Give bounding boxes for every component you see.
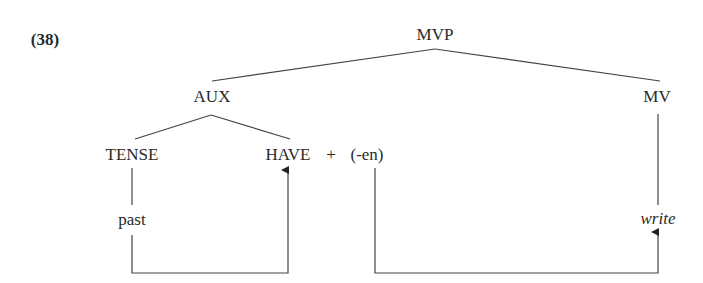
plus-sign: + [326, 145, 336, 165]
edge-aux-have [211, 115, 290, 139]
node-tense: TENSE [106, 145, 159, 165]
node-mvp: MVP [417, 25, 454, 45]
edge-mvp-aux [212, 49, 435, 81]
affix-hop-en-to-write [375, 168, 658, 273]
node-have: HAVE [265, 145, 310, 165]
leaf-write: write [641, 209, 676, 229]
affix-hop-past-to-have [132, 170, 288, 273]
tree-lines [0, 0, 703, 283]
node-en-affix: (-en) [350, 145, 383, 165]
edge-mvp-mv [435, 49, 660, 81]
example-number: (38) [31, 30, 59, 50]
leaf-past: past [118, 210, 145, 230]
edge-aux-tense [135, 115, 211, 139]
node-aux: AUX [194, 87, 231, 107]
node-mv: MV [643, 87, 670, 107]
